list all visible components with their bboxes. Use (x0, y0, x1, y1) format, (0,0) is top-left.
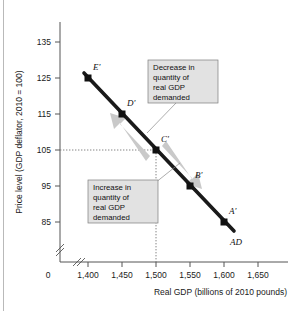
aggregate-demand-curve-figure: 135 125 115 105 95 85 0 1,400 1,450 1,50… (0, 0, 299, 311)
y-tick-label-135: 135 (37, 37, 51, 47)
increase-annotation-line-4: demanded (93, 213, 130, 222)
x-tick-label-1550: 1,550 (179, 270, 201, 280)
x-tick-label-1400: 1,400 (77, 270, 99, 280)
x-tick-label-1650: 1,650 (247, 270, 269, 280)
decrease-annotation-line-3: real GDP (153, 83, 185, 92)
decrease-annotation-line-2: quantity of (153, 73, 190, 82)
data-point-label-A: A' (228, 206, 237, 216)
decrease-annotation-line-1: Decrease in (153, 63, 195, 72)
y-tick-label-85: 85 (42, 217, 52, 227)
axes (55, 22, 288, 267)
decrease-annotation-line-4: demanded (153, 93, 190, 102)
increase-annotation-leader-line (155, 163, 180, 183)
data-point-C[interactable] (153, 147, 160, 154)
x-tick-label-1450: 1,450 (111, 270, 133, 280)
x-tick-label-1500: 1,500 (145, 270, 167, 280)
ad-curve-label: AD (229, 237, 242, 247)
increase-annotation-line-1: Increase in (93, 183, 131, 192)
increase-annotation-line-2: quantity of (93, 193, 130, 202)
y-tick-labels: 135 125 115 105 95 85 (37, 37, 51, 227)
y-tick-label-105: 105 (37, 145, 51, 155)
data-point-A[interactable] (221, 219, 228, 226)
decrease-annotation-leader-line (147, 103, 176, 133)
x-tick-labels: 0 1,400 1,450 1,500 1,550 1,600 1,650 (46, 270, 269, 280)
y-axis-title: Price level (GDP deflator, 2010 = 100) (14, 70, 24, 213)
data-point-label-B: B' (195, 170, 203, 180)
ad-curve-chart: 135 125 115 105 95 85 0 1,400 1,450 1,50… (0, 0, 299, 311)
data-point-E[interactable] (85, 75, 92, 82)
increase-movement-arrow (162, 141, 202, 189)
data-point-label-C: C' (161, 134, 170, 144)
data-point-label-E: E' (92, 62, 101, 72)
data-point-label-D: D' (126, 98, 136, 108)
data-point-B[interactable] (187, 183, 194, 190)
x-axis-title: Real GDP (billions of 2010 pounds) (154, 287, 287, 297)
x-tick-label-0: 0 (46, 270, 51, 280)
y-tick-label-115: 115 (37, 109, 51, 119)
x-tick-label-1600: 1,600 (213, 270, 235, 280)
decrease-annotation[interactable]: Decrease in quantity of real GDP demande… (148, 60, 218, 103)
data-point-D[interactable] (119, 111, 126, 118)
y-tick-label-95: 95 (42, 181, 52, 191)
y-tick-label-125: 125 (37, 73, 51, 83)
increase-annotation[interactable]: Increase in quantity of real GDP demande… (88, 180, 158, 223)
increase-annotation-line-3: real GDP (93, 203, 125, 212)
